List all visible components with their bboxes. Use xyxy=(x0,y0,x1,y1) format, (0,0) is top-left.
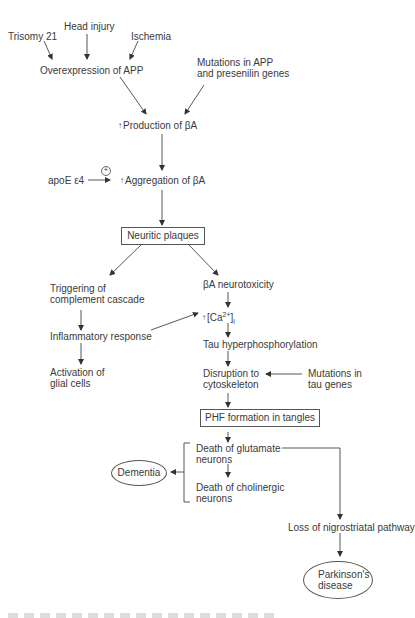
node-calcium-increase: ↑[Ca2+]i xyxy=(202,309,235,328)
node-overexpression-app: Overexpression of APP xyxy=(40,65,143,77)
node-complement-line1: Triggering of xyxy=(50,283,106,295)
node-ischemia: Ischemia xyxy=(131,31,171,43)
node-inflammatory-response: Inflammatory response xyxy=(50,331,152,343)
node-cholinergic-line2: neurons xyxy=(196,493,232,505)
node-glial-line2: glial cells xyxy=(50,378,91,390)
node-dementia: Dementia xyxy=(111,460,167,486)
node-cholinergic-line1: Death of cholinergic xyxy=(196,482,284,494)
node-disruption-line2: cytoskeleton xyxy=(203,379,259,391)
increase-arrow-icon: ↑ xyxy=(118,121,122,130)
node-nigrostriatal-loss: Loss of nigrostriatal pathway xyxy=(288,522,415,534)
node-head-injury: Head injury xyxy=(64,21,115,33)
node-aggregation-ba: ↑Aggregation of βA xyxy=(120,175,205,188)
increase-arrow-icon: ↑ xyxy=(202,313,206,322)
node-neuritic-plaques: Neuritic plaques xyxy=(121,227,205,245)
node-ba-neurotoxicity: βA neurotoxicity xyxy=(203,279,274,291)
node-tau-mutations-line2: tau genes xyxy=(308,379,352,391)
node-tau-mutations-line1: Mutations in xyxy=(308,368,362,380)
node-trisomy-21: Trisomy 21 xyxy=(8,31,57,43)
node-glutamate-line1: Death of glutamate xyxy=(196,443,281,455)
node-parkinsons-disease: Parkinson's disease xyxy=(303,561,373,599)
node-apoe-e4: apoE ε4 xyxy=(48,175,84,187)
node-complement-line2: complement cascade xyxy=(50,294,145,306)
node-glial-line1: Activation of xyxy=(50,367,104,379)
node-tau-hyperphosphorylation: Tau hyperphosphorylation xyxy=(203,339,318,351)
node-glutamate-line2: neurons xyxy=(196,454,232,466)
node-phf-formation: PHF formation in tangles xyxy=(200,409,320,427)
increase-arrow-icon: ↑ xyxy=(120,176,124,185)
node-disruption-line1: Disruption to xyxy=(203,368,259,380)
node-mutations-app-line1: Mutations in APP xyxy=(197,57,273,69)
plus-sign: + xyxy=(104,165,109,175)
node-mutations-app-line2: and presenilin genes xyxy=(197,68,289,80)
figure-caption-truncated xyxy=(8,613,278,618)
node-production-ba: ↑Production of βA xyxy=(118,120,197,133)
